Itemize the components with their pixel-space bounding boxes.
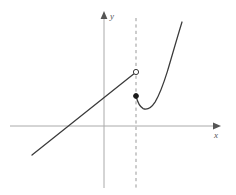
x-axis-label: x (213, 130, 218, 140)
plot-background (0, 0, 236, 195)
open-circle-marker (133, 69, 138, 74)
graph-canvas: y x (0, 0, 236, 195)
filled-dot-marker (134, 94, 139, 99)
function-graph-figure: y x (0, 0, 236, 195)
y-axis-label: y (109, 11, 114, 21)
